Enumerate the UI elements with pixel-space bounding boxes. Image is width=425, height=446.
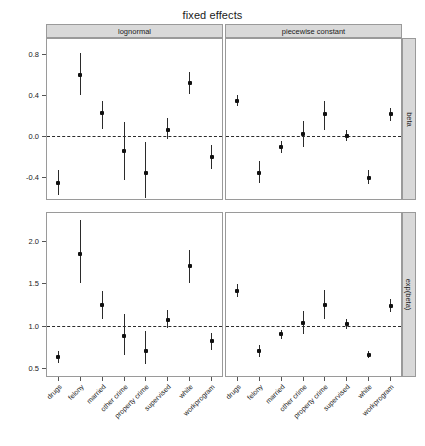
data-point [257, 349, 261, 353]
error-bar [145, 331, 146, 364]
data-point [257, 171, 261, 175]
y-axis-tick-mark [42, 177, 46, 178]
reference-line [226, 326, 401, 327]
data-point [78, 73, 82, 77]
x-axis-tick-mark [145, 377, 146, 381]
plot-panel-expbeta-piecewise [225, 212, 402, 377]
data-point [144, 171, 148, 175]
data-point [166, 128, 170, 132]
y-axis-tick-mark [42, 368, 46, 369]
reference-line [226, 136, 401, 137]
facet-strip-label: exp(beta) [405, 279, 414, 311]
data-point [279, 145, 283, 149]
plot-panel-expbeta-lognormal [46, 212, 223, 377]
x-axis-tick-mark [324, 377, 325, 381]
reference-line [47, 326, 222, 327]
data-point [235, 289, 239, 293]
facet-strip-beta: beta [402, 38, 416, 200]
plot-panel-beta-lognormal [46, 38, 223, 200]
y-axis-tick-mark [42, 241, 46, 242]
data-point [323, 303, 327, 307]
y-axis-tick-label: 2.0 [13, 237, 39, 246]
data-point [323, 112, 327, 116]
y-axis-tick-label: 0.8 [13, 50, 39, 59]
data-point [301, 132, 305, 136]
data-point [188, 81, 192, 85]
facet-strip-lognormal: lognormal [46, 24, 223, 38]
data-point [188, 264, 192, 268]
x-axis-tick-mark [167, 377, 168, 381]
x-axis-tick-mark [259, 377, 260, 381]
reference-line [47, 136, 222, 137]
data-point [100, 303, 104, 307]
y-axis-tick-mark [42, 326, 46, 327]
y-axis-tick-label: 0.4 [13, 91, 39, 100]
facet-strip-label: lognormal [118, 27, 151, 36]
x-axis-tick-mark [390, 377, 391, 381]
data-point [78, 252, 82, 256]
data-point [56, 181, 60, 185]
x-axis-tick-mark [303, 377, 304, 381]
data-point [367, 353, 371, 357]
data-point [367, 176, 371, 180]
y-axis-tick-label: -0.4 [13, 172, 39, 181]
data-point [235, 99, 239, 103]
plot-panel-beta-piecewise [225, 38, 402, 200]
y-axis-tick-label: 1.0 [13, 321, 39, 330]
x-axis-tick-mark [237, 377, 238, 381]
x-axis-tick-mark [281, 377, 282, 381]
data-point [210, 155, 214, 159]
data-point [389, 304, 393, 308]
facet-strip-expbeta: exp(beta) [402, 212, 416, 377]
y-axis-tick-label: 0.5 [13, 364, 39, 373]
data-point [345, 134, 349, 138]
x-axis-tick-mark [58, 377, 59, 381]
data-point [100, 111, 104, 115]
x-axis-tick-mark [211, 377, 212, 381]
data-point [210, 339, 214, 343]
data-point [279, 332, 283, 336]
data-point [166, 318, 170, 322]
data-point [122, 149, 126, 153]
data-point [122, 334, 126, 338]
x-axis-tick-mark [102, 377, 103, 381]
facet-strip-label: piecewise constant [282, 27, 345, 36]
chart-root: fixed effects lognormal piecewise consta… [0, 0, 425, 446]
facet-strip-piecewise-constant: piecewise constant [225, 24, 402, 38]
y-axis-tick-mark [42, 136, 46, 137]
y-axis-tick-mark [42, 283, 46, 284]
y-axis-tick-mark [42, 54, 46, 55]
data-point [301, 321, 305, 325]
facet-strip-label: beta [405, 112, 414, 127]
x-axis-tick-mark [346, 377, 347, 381]
x-axis-tick-mark [189, 377, 190, 381]
y-axis-tick-label: 0.0 [13, 131, 39, 140]
x-axis-tick-mark [368, 377, 369, 381]
data-point [144, 349, 148, 353]
chart-title: fixed effects [0, 9, 425, 21]
error-bar [145, 142, 146, 198]
x-axis-tick-mark [80, 377, 81, 381]
y-axis-tick-label: 1.5 [13, 279, 39, 288]
data-point [389, 112, 393, 116]
x-axis-tick-mark [124, 377, 125, 381]
data-point [345, 322, 349, 326]
data-point [56, 355, 60, 359]
y-axis-tick-mark [42, 95, 46, 96]
